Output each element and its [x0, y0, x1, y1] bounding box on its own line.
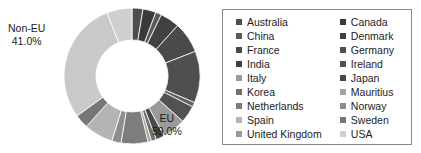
pie-label-eu: EU 59.0%	[152, 112, 182, 137]
legend: AustraliaChinaFranceIndiaItalyKoreaNethe…	[222, 9, 412, 145]
legend-item-label: Denmark	[351, 29, 394, 43]
legend-swatch-icon	[340, 89, 346, 95]
legend-item-label: Australia	[247, 15, 288, 29]
legend-item[interactable]: Germany	[340, 43, 411, 57]
donut-slice[interactable]	[64, 13, 119, 116]
legend-swatch-icon	[340, 47, 346, 53]
legend-item[interactable]: Canada	[340, 15, 411, 29]
legend-swatch-icon	[236, 89, 242, 95]
legend-item-label: China	[247, 29, 274, 43]
legend-item[interactable]: Denmark	[340, 29, 411, 43]
legend-swatch-icon	[340, 19, 346, 25]
pie-label-eu-value: 59.0%	[152, 125, 182, 138]
legend-swatch-icon	[340, 117, 346, 123]
legend-item[interactable]: USA	[340, 127, 411, 141]
legend-item-label: India	[247, 57, 270, 71]
pie-label-non-eu: Non-EU 41.0%	[8, 22, 45, 47]
legend-swatch-icon	[340, 103, 346, 109]
legend-column-left: AustraliaChinaFranceIndiaItalyKoreaNethe…	[223, 15, 334, 144]
legend-item-label: Spain	[247, 113, 274, 127]
legend-item-label: USA	[351, 127, 373, 141]
legend-item[interactable]: Norway	[340, 99, 411, 113]
pie-label-non-eu-name: Non-EU	[8, 22, 45, 35]
legend-item-label: Ireland	[351, 57, 383, 71]
legend-swatch-icon	[236, 75, 242, 81]
legend-swatch-icon	[236, 131, 242, 137]
legend-swatch-icon	[340, 61, 346, 67]
legend-item[interactable]: United Kingdom	[236, 127, 334, 141]
legend-item-label: Germany	[351, 43, 394, 57]
legend-item-label: Japan	[351, 71, 380, 85]
legend-item[interactable]: Japan	[340, 71, 411, 85]
legend-swatch-icon	[340, 33, 346, 39]
legend-item-label: United Kingdom	[247, 127, 322, 141]
legend-item[interactable]: Italy	[236, 71, 334, 85]
legend-item[interactable]: Netherlands	[236, 99, 334, 113]
legend-item[interactable]: Australia	[236, 15, 334, 29]
legend-item-label: Korea	[247, 85, 275, 99]
legend-item[interactable]: Spain	[236, 113, 334, 127]
legend-item-label: Netherlands	[247, 99, 304, 113]
legend-item-label: Italy	[247, 71, 266, 85]
legend-swatch-icon	[236, 103, 242, 109]
legend-item[interactable]: India	[236, 57, 334, 71]
legend-column-right: CanadaDenmarkGermanyIrelandJapanMauritiu…	[334, 15, 411, 144]
legend-item-label: Mauritius	[351, 85, 394, 99]
legend-swatch-icon	[340, 75, 346, 81]
legend-item[interactable]: Mauritius	[340, 85, 411, 99]
legend-swatch-icon	[236, 47, 242, 53]
legend-item-label: France	[247, 43, 280, 57]
legend-item-label: Sweden	[351, 113, 389, 127]
legend-columns: AustraliaChinaFranceIndiaItalyKoreaNethe…	[223, 10, 411, 144]
legend-item[interactable]: Ireland	[340, 57, 411, 71]
legend-swatch-icon	[236, 19, 242, 25]
legend-swatch-icon	[236, 117, 242, 123]
pie-label-non-eu-value: 41.0%	[8, 35, 45, 48]
donut-chart-area: Non-EU 41.0% EU 59.0%	[0, 0, 212, 153]
legend-item[interactable]: Korea	[236, 85, 334, 99]
legend-item[interactable]: Sweden	[340, 113, 411, 127]
legend-swatch-icon	[340, 131, 346, 137]
pie-label-eu-name: EU	[152, 112, 182, 125]
legend-swatch-icon	[236, 33, 242, 39]
legend-item-label: Norway	[351, 99, 387, 113]
legend-swatch-icon	[236, 61, 242, 67]
legend-item[interactable]: China	[236, 29, 334, 43]
legend-item-label: Canada	[351, 15, 388, 29]
legend-item[interactable]: France	[236, 43, 334, 57]
chart-figure: Non-EU 41.0% EU 59.0% AustraliaChinaFran…	[0, 0, 421, 153]
